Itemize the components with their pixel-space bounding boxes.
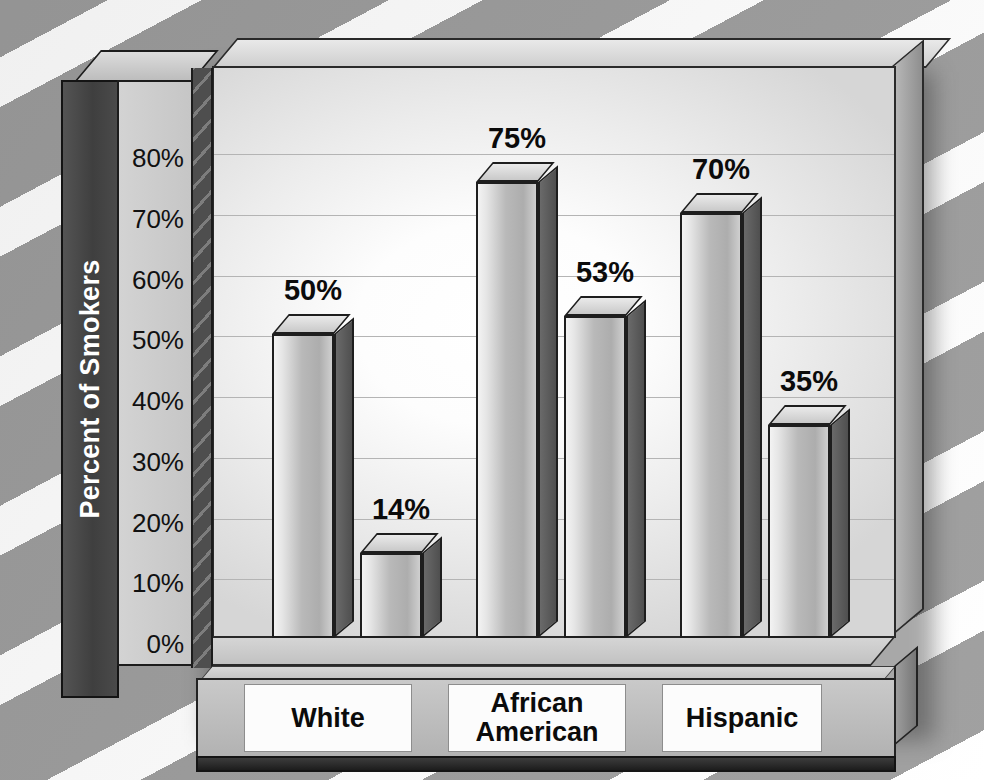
bar-side-face (334, 317, 354, 638)
bar-front-face (272, 334, 334, 638)
bar-value-label: 14% (360, 493, 442, 526)
category-plinth-bottom-edge (196, 756, 896, 772)
bar (564, 296, 646, 638)
category-label-african-american: African American (448, 684, 626, 752)
y-axis-tick-label: 0% (146, 629, 184, 660)
bar-side-face (538, 166, 558, 638)
bar (360, 533, 442, 638)
y-axis-tick-label: 50% (132, 325, 184, 356)
axis-hatched-wall (191, 68, 213, 668)
bar-value-label: 53% (564, 256, 646, 289)
bar-value-label: 70% (680, 153, 762, 186)
bar (476, 162, 558, 638)
y-axis-tick-label: 40% (132, 386, 184, 417)
bar-front-face (680, 213, 742, 638)
bar (272, 314, 354, 638)
category-label-white: White (244, 684, 412, 752)
category-label-hispanic: Hispanic (662, 684, 822, 752)
plot-panel-right-face (892, 39, 924, 636)
y-axis-tick-strip: 0%10%20%30%40%50%60%70%80% (117, 80, 193, 666)
bar-front-face (768, 425, 830, 638)
y-axis-title: Percent of Smokers (75, 260, 106, 519)
chart-screenshot: Percent of Smokers 0%10%20%30%40%50%60%7… (0, 0, 984, 780)
y-axis-tick-label: 80% (132, 143, 184, 174)
bar-front-face (476, 182, 538, 638)
y-axis-tick-label: 70% (132, 203, 184, 234)
chart-assembly: Percent of Smokers 0%10%20%30%40%50%60%7… (46, 38, 946, 750)
bar-value-label: 50% (272, 274, 354, 307)
y-axis-tick-label: 20% (132, 507, 184, 538)
bar-side-face (626, 299, 646, 638)
bar-front-face (564, 316, 626, 638)
y-axis-tick-label: 10% (132, 568, 184, 599)
bar-value-label: 75% (476, 122, 558, 155)
bar-front-face (360, 553, 422, 638)
plot-panel-top-face (212, 38, 951, 68)
y-axis-tick-label: 30% (132, 446, 184, 477)
y-axis-tick-label: 60% (132, 264, 184, 295)
bar-value-label: 35% (768, 365, 850, 398)
plot-floor (187, 636, 896, 666)
bar (768, 405, 850, 638)
bar-side-face (422, 536, 442, 638)
axis-title-band: Percent of Smokers (61, 80, 119, 698)
bar-side-face (830, 409, 850, 638)
bar (680, 193, 762, 638)
bar-side-face (742, 196, 762, 638)
